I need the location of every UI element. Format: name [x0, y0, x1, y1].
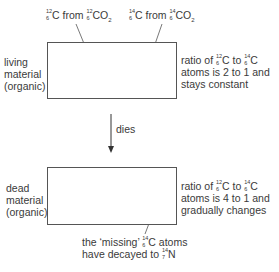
- dead-material-label: dead material (organic): [6, 182, 47, 218]
- missing-atoms-note: the ‘missing’ 146C atoms have decayed to…: [82, 236, 187, 260]
- dead-material-box: [47, 167, 177, 225]
- dies-label: dies: [116, 123, 135, 135]
- label-c12-from-co2: 126C from 126CO2: [46, 9, 112, 23]
- label-c14-from-co2: 146C from 146CO2: [129, 9, 195, 23]
- living-material-label: living material (organic): [4, 56, 45, 92]
- dies-arrow-head: [108, 146, 114, 153]
- diagram-graphics: [0, 0, 279, 272]
- dead-ratio-text: ratio of 126C to 146C atoms is 4 to 1 an…: [181, 180, 270, 216]
- living-material-box: [47, 42, 177, 99]
- living-ratio-text: ratio of 126C to 146C atoms is 2 to 1 an…: [181, 54, 270, 90]
